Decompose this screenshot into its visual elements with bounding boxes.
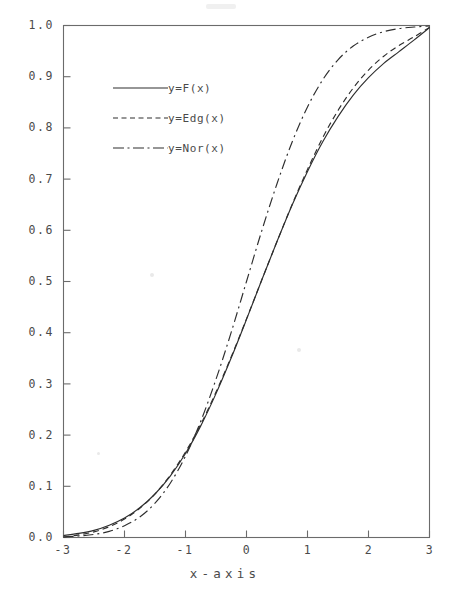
figure-canvas: 1.0 0.9 0.8 0.7 0.6 0.5 0.4 0.3 0.2 0.1 …: [0, 0, 450, 600]
y-tick-label: 0.0: [8, 530, 54, 544]
x-tick-label: -3: [50, 543, 76, 557]
y-tick-label: 0.8: [8, 120, 54, 134]
y-tick-label: 0.4: [8, 325, 54, 339]
y-tick-label: 0.7: [8, 172, 54, 186]
x-axis-title: x-axis: [0, 566, 450, 581]
x-tick-label: 2: [356, 543, 382, 557]
y-tick-label: 0.1: [8, 479, 54, 493]
x-tick-label: -1: [172, 543, 198, 557]
legend-label-nor: y=Nor(x): [168, 142, 226, 155]
legend-swatches: [113, 88, 168, 148]
legend-label-f: y=F(x): [168, 82, 211, 95]
x-tick-label: 1: [295, 543, 321, 557]
series-line-nor: [64, 26, 430, 537]
y-tick-label: 0.2: [8, 428, 54, 442]
y-tick-label: 0.6: [8, 223, 54, 237]
x-tick-label: 0: [234, 543, 260, 557]
y-tick-label: 0.3: [8, 377, 54, 391]
x-tick-label: 3: [417, 543, 443, 557]
plot-svg: [0, 0, 450, 600]
y-tick-label: 0.9: [8, 69, 54, 83]
y-tick-label: 0.5: [8, 274, 54, 288]
legend-label-edg: y=Edg(x): [168, 112, 226, 125]
y-tick-label: 1.0: [8, 18, 54, 32]
y-tick-marks: [64, 26, 71, 538]
x-tick-label: -2: [111, 543, 137, 557]
x-tick-marks: [64, 531, 430, 538]
